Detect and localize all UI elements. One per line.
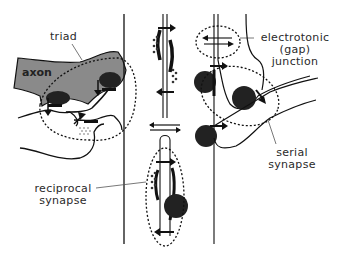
reciprocal-column	[96, 14, 188, 246]
serial-synapse-label-line2: synapse	[262, 159, 322, 171]
triad-group	[14, 14, 136, 244]
reciprocal-synapse-label-line2: synapse	[28, 195, 98, 207]
gap-junction-label-line3: junction	[255, 56, 335, 68]
gap-junction-label: electrotonic (gap) junction	[255, 32, 335, 68]
triad-label: triad	[50, 31, 77, 43]
serial-synapse-label: serial synapse	[262, 147, 322, 171]
axon-label: axon	[22, 66, 52, 79]
synapse-diagram: triad axon electrotonic (gap) junction s…	[0, 0, 343, 257]
vesicle-cluster	[99, 72, 121, 88]
reciprocal-synapse-label: reciprocal synapse	[28, 183, 98, 207]
vesicle-cluster	[46, 91, 70, 105]
